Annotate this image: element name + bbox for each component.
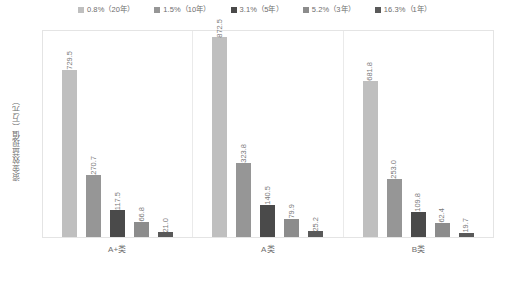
legend-swatch-icon <box>375 7 381 13</box>
bar[interactable] <box>459 233 474 238</box>
bar-value-label: 25.2 <box>312 217 320 232</box>
bar[interactable] <box>387 179 402 237</box>
x-axis-tick-label: A类 <box>193 239 344 257</box>
bar-value-text: 19.7 <box>463 218 471 233</box>
legend-item[interactable]: 3.1%（5年） <box>231 6 283 14</box>
bar-value-label: 270.7 <box>90 156 98 175</box>
legend-swatch-icon <box>303 7 309 13</box>
x-axis-tick-label: B类 <box>343 239 494 257</box>
bar-slot: 117.5 <box>110 210 125 237</box>
bar[interactable] <box>86 175 101 237</box>
bar[interactable] <box>134 222 149 237</box>
bar-value-text: 66.8 <box>138 207 146 222</box>
bar-slot: 872.5 <box>212 37 227 237</box>
bar-chart: 0.8%（20年）1.5%（10年）3.1%（5年）5.2%（3年）16.3%（… <box>0 0 509 281</box>
bar-value-text: 109.8 <box>415 193 423 212</box>
bar-value-text: 270.7 <box>90 156 98 175</box>
bar-value-label: 109.8 <box>415 193 423 212</box>
bar-value-text: 140.5 <box>264 186 272 205</box>
bar[interactable] <box>158 232 173 237</box>
bar-value-text: 62.4 <box>439 208 447 223</box>
bar-slot: 140.5 <box>260 205 275 237</box>
bar-value-label: 140.5 <box>264 186 272 205</box>
bar-group: 872.5323.8140.579.925.2 <box>192 31 342 237</box>
bar[interactable] <box>363 81 378 237</box>
bar[interactable] <box>411 212 426 237</box>
bar-value-text: 25.2 <box>312 217 320 232</box>
bar[interactable] <box>212 37 227 237</box>
legend-item[interactable]: 0.8%（20年） <box>78 6 134 14</box>
legend-item[interactable]: 1.5%（10年） <box>154 6 210 14</box>
x-axis-tick-label: A+类 <box>42 239 193 257</box>
legend-swatch-icon <box>78 7 84 13</box>
legend-item-label: 5.2%（3年） <box>312 6 355 14</box>
bar-value-label: 729.5 <box>66 51 74 70</box>
bar-value-label: 79.9 <box>288 204 296 219</box>
bar-value-text: 253.0 <box>391 160 399 179</box>
bar-slot: 323.8 <box>236 163 251 237</box>
bar[interactable] <box>110 210 125 237</box>
bar-groups: 729.5270.7117.566.821.0872.5323.8140.579… <box>43 31 493 237</box>
legend-item-label: 0.8%（20年） <box>87 6 134 14</box>
x-axis: A+类A类B类 <box>42 239 494 257</box>
bar-value-text: 117.5 <box>114 192 122 210</box>
legend-swatch-icon <box>154 7 160 13</box>
bar-slot: 729.5 <box>62 70 77 237</box>
bar-value-label: 19.7 <box>463 218 471 233</box>
bar-value-text: 872.5 <box>216 19 224 38</box>
y-axis-title-label: 资金效益现值（万元） <box>11 97 22 181</box>
bar-value-label: 62.4 <box>439 208 447 223</box>
bar-value-label: 253.0 <box>391 160 399 179</box>
bar-value-label: 323.8 <box>240 144 248 163</box>
bar-value-text: 79.9 <box>288 204 296 219</box>
plot-area: 729.5270.7117.566.821.0872.5323.8140.579… <box>42 30 494 238</box>
bar-slot: 62.4 <box>435 223 450 237</box>
bar[interactable] <box>62 70 77 237</box>
bar[interactable] <box>435 223 450 237</box>
bar[interactable] <box>284 219 299 237</box>
bar-value-label: 117.5 <box>114 192 122 210</box>
bar-slot: 19.7 <box>459 233 474 238</box>
y-axis-title: 资金效益现值（万元） <box>8 44 24 234</box>
legend-item-label: 1.5%（10年） <box>163 6 210 14</box>
bar-value-label: 872.5 <box>216 19 224 38</box>
bar-group: 729.5270.7117.566.821.0 <box>43 31 192 237</box>
bar[interactable] <box>236 163 251 237</box>
bar-slot: 79.9 <box>284 219 299 237</box>
chart-legend: 0.8%（20年）1.5%（10年）3.1%（5年）5.2%（3年）16.3%（… <box>0 6 509 14</box>
bar-value-label: 21.0 <box>162 218 170 233</box>
bar-value-text: 729.5 <box>66 51 74 70</box>
legend-item[interactable]: 5.2%（3年） <box>303 6 355 14</box>
bar-value-text: 323.8 <box>240 144 248 163</box>
bar-slot: 270.7 <box>86 175 101 237</box>
legend-item[interactable]: 16.3%（1年） <box>375 6 431 14</box>
bar-slot: 21.0 <box>158 232 173 237</box>
legend-swatch-icon <box>231 7 237 13</box>
bar-value-text: 21.0 <box>162 218 170 233</box>
legend-item-label: 16.3%（1年） <box>384 6 431 14</box>
bar[interactable] <box>260 205 275 237</box>
bar[interactable] <box>308 231 323 237</box>
bar-group: 681.8253.0109.862.419.7 <box>343 31 493 237</box>
bar-value-label: 66.8 <box>138 207 146 222</box>
bar-slot: 253.0 <box>387 179 402 237</box>
bar-value-label: 681.8 <box>367 62 375 81</box>
bar-slot: 681.8 <box>363 81 378 237</box>
bar-slot: 66.8 <box>134 222 149 237</box>
bar-slot: 109.8 <box>411 212 426 237</box>
bar-value-text: 681.8 <box>367 62 375 81</box>
legend-item-label: 3.1%（5年） <box>240 6 283 14</box>
bar-slot: 25.2 <box>308 231 323 237</box>
